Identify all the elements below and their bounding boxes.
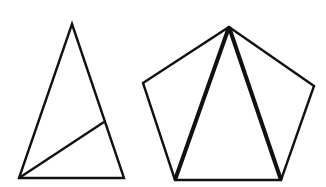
pentagon-diagonal-right [229,27,281,180]
triangle-cevian [19,122,104,178]
pentagon [143,27,314,180]
figure-svg [0,0,326,187]
triangle [19,24,124,178]
geometry-figure [0,0,326,187]
pentagon-diagonal-left [175,27,229,180]
